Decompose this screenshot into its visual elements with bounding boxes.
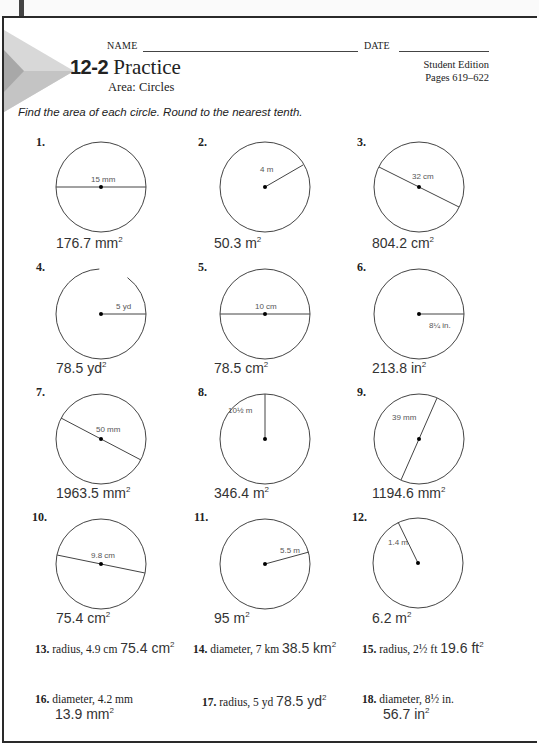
problem-9: 9. 39 mm 1194.6 mm2 [357, 385, 517, 505]
answer: 6.2 m2 [372, 610, 411, 626]
measure-label: 15 mm [91, 175, 116, 184]
answer: 78.5 cm2 [214, 360, 268, 376]
decorative-triangle-icon [4, 30, 74, 112]
answer-16: 13.9 mm2 [55, 706, 114, 722]
page-subtitle: Area: Circles [108, 80, 174, 95]
problem-2: 2. 4 m 50.3 m2 [198, 135, 358, 255]
answer: 346.4 m2 [214, 485, 269, 501]
problem-18: 18. diameter, 8½ in. [362, 693, 454, 705]
problem-3: 3. 32 cm 804.2 cm2 [357, 135, 517, 255]
svg-text:50 mm: 50 mm [96, 425, 121, 434]
answer: 804.2 cm2 [372, 235, 434, 251]
problem-10: 10. 9.8 cm 75.4 cm2 [32, 510, 192, 630]
problem-15: 15. radius, 2½ ft 19.6 ft2 [362, 640, 484, 656]
answer: 176.7 mm2 [56, 235, 123, 251]
binder-post [19, 0, 24, 17]
svg-text:5 yd: 5 yd [116, 302, 131, 311]
svg-text:9.8 cm: 9.8 cm [91, 551, 115, 560]
problem-11: 11. 5.5 m 95 m2 [194, 510, 354, 630]
problem-17: 17. radius, 5 yd 78.5 yd2 [202, 693, 327, 709]
problem-6: 6. 8¼ in. 213.8 in2 [357, 260, 517, 380]
svg-text:10 cm: 10 cm [255, 302, 277, 311]
problem-12: 12. 1.4 m 6.2 m2 [352, 510, 512, 630]
problem-8: 8. 10½ m 346.4 m2 [198, 385, 358, 505]
answer: 95 m2 [214, 610, 250, 626]
svg-text:1.4 m: 1.4 m [388, 538, 408, 547]
date-field[interactable] [399, 51, 489, 52]
answer: 50.3 m2 [214, 235, 261, 251]
edition-reference: Student Edition Pages 619–622 [423, 58, 489, 84]
name-field[interactable] [143, 51, 358, 52]
svg-text:8¼ in.: 8¼ in. [429, 321, 451, 330]
answer-18: 56.7 in2 [383, 706, 430, 722]
page-title: 12-2 Practice [70, 55, 181, 79]
svg-text:39 mm: 39 mm [392, 413, 417, 422]
answer: 213.8 in2 [372, 360, 426, 376]
svg-text:10½ m: 10½ m [228, 406, 253, 415]
name-label: NAME [107, 40, 138, 51]
instructions: Find the area of each circle. Round to t… [18, 106, 302, 118]
svg-text:32 cm: 32 cm [412, 172, 434, 181]
problem-14: 14. diameter, 7 km 38.5 km2 [193, 640, 336, 656]
answer: 1963.5 mm2 [56, 485, 131, 501]
problem-1: 1. 15 mm 176.7 mm2 [36, 135, 196, 255]
answer: 78.5 yd2 [56, 360, 106, 376]
lesson-number: 12-2 [70, 56, 108, 78]
svg-text:4 m: 4 m [260, 165, 274, 174]
problem-5: 5. 10 cm 78.5 cm2 [198, 260, 358, 380]
answer: 75.4 cm2 [56, 610, 110, 626]
svg-text:5.5 m: 5.5 m [280, 546, 300, 555]
problem-4: 4. 5 yd 78.5 yd2 [36, 260, 196, 380]
problem-13: 13. radius, 4.9 cm 75.4 cm2 [35, 640, 175, 656]
pages-line: Pages 619–622 [423, 71, 489, 84]
page-top-strip [0, 0, 539, 17]
problem-16: 16. diameter, 4.2 mm [35, 693, 133, 705]
problem-7: 7. 50 mm 1963.5 mm2 [36, 385, 196, 505]
answer: 1194.6 mm2 [372, 485, 445, 501]
date-label: DATE [364, 40, 390, 51]
edition-line: Student Edition [423, 58, 489, 71]
title-text: Practice [113, 55, 181, 79]
